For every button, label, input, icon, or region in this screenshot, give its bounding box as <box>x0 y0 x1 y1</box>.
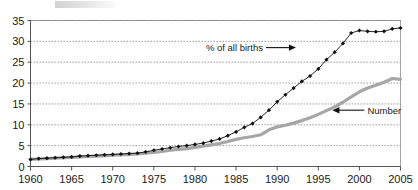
x-tick-label-1995: 1995 <box>306 173 330 185</box>
y-tick-label-35: 35 <box>12 15 24 27</box>
data-point-marker <box>209 139 213 143</box>
x-tick-label-1980: 1980 <box>183 173 207 185</box>
data-point-marker <box>226 134 230 138</box>
line-chart: 0510152025303519601965197019751980198519… <box>0 0 418 190</box>
data-point-marker <box>398 26 402 30</box>
x-tick-label-1975: 1975 <box>142 173 166 185</box>
x-tick-label-1990: 1990 <box>265 173 289 185</box>
annotation-label-of-all-births: % of all births <box>206 42 263 53</box>
x-tick-label-2005: 2005 <box>388 173 412 185</box>
x-tick-label-1965: 1965 <box>59 173 83 185</box>
x-tick-label-1960: 1960 <box>18 173 42 185</box>
y-tick-label-15: 15 <box>12 98 24 110</box>
y-tick-label-20: 20 <box>12 77 24 89</box>
series-line-number <box>31 78 401 159</box>
data-point-marker <box>390 27 394 31</box>
x-tick-label-2000: 2000 <box>347 173 371 185</box>
y-tick-label-5: 5 <box>18 140 24 152</box>
data-point-marker <box>234 130 238 134</box>
data-point-marker <box>218 137 222 141</box>
y-tick-label-30: 30 <box>12 35 24 47</box>
data-point-marker <box>366 29 370 33</box>
y-tick-label-0: 0 <box>18 161 24 173</box>
data-point-marker <box>374 30 378 34</box>
x-tick-label-1970: 1970 <box>100 173 124 185</box>
annotation-label-number: Number <box>367 105 401 116</box>
data-point-marker <box>242 125 246 129</box>
data-point-marker <box>357 28 361 32</box>
data-point-marker <box>382 29 386 33</box>
annotation-arrow-head-of-all-births <box>289 44 296 50</box>
y-tick-label-25: 25 <box>12 56 24 68</box>
y-tick-label-10: 10 <box>12 119 24 131</box>
x-tick-label-1985: 1985 <box>224 173 248 185</box>
cropped-title-fragment <box>55 1 115 8</box>
chart-container: 0510152025303519601965197019751980198519… <box>0 0 418 190</box>
